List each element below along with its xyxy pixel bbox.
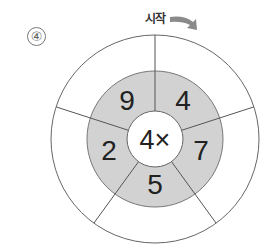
inner-value: 4 [175, 85, 191, 116]
inner-value: 9 [119, 85, 135, 116]
clockwise-arrow-icon [170, 17, 197, 30]
inner-value: 7 [193, 135, 209, 166]
inner-value: 5 [147, 169, 163, 200]
inner-value: 2 [101, 135, 117, 166]
center-label: 4× [140, 125, 171, 155]
multiplication-wheel: 4× 4 7 5 2 9 [0, 0, 277, 252]
